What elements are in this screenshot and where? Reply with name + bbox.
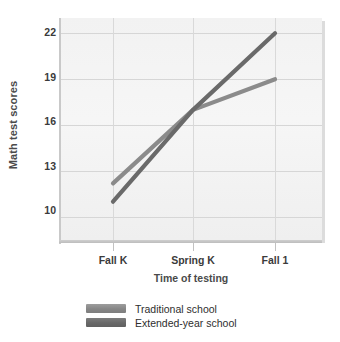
legend-swatch-traditional: [86, 304, 126, 313]
y-tick-label-group: 22 19 16 13 10: [28, 0, 56, 342]
series-line-traditional: [113, 79, 275, 183]
x-tick-mark-fall-1: [275, 243, 276, 251]
y-axis-title: Math test scores: [0, 0, 26, 250]
x-tick-label-spring-k: Spring K: [171, 254, 215, 266]
x-axis-title: Time of testing: [60, 272, 322, 284]
y-tick-label-16: 16: [30, 115, 56, 127]
legend-label-extended-year: Extended-year school: [135, 317, 237, 329]
plot-area: [60, 18, 322, 240]
math-scores-line-chart: Math test scores 22 19 16 13 10: [0, 0, 340, 342]
plot-right-shadow: [322, 21, 325, 243]
legend-item-traditional: Traditional school: [86, 302, 237, 315]
series-lines: [60, 18, 322, 240]
x-tick-mark-fall-k: [113, 243, 114, 251]
y-tick-label-22: 22: [30, 26, 56, 38]
y-tick-label-19: 19: [30, 71, 56, 83]
x-tick-label-fall-1: Fall 1: [262, 254, 289, 266]
legend-swatch-extended-year: [86, 318, 126, 327]
series-line-extended-year: [113, 33, 275, 201]
y-axis-title-label: Math test scores: [7, 81, 19, 169]
y-tick-label-10: 10: [30, 204, 56, 216]
legend-label-traditional: Traditional school: [135, 303, 217, 315]
legend-item-extended-year: Extended-year school: [86, 316, 237, 329]
y-tick-label-13: 13: [30, 160, 56, 172]
y-axis-line: [59, 18, 61, 244]
x-axis-line: [59, 240, 325, 243]
chart-legend: Traditional school Extended-year school: [86, 302, 237, 330]
x-tick-label-fall-k: Fall K: [99, 254, 128, 266]
x-tick-mark-spring-k: [193, 243, 194, 251]
